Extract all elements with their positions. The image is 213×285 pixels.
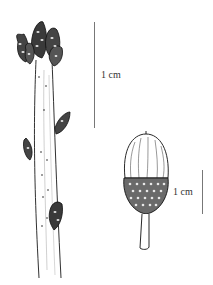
acorn-drawing xyxy=(124,131,169,249)
twig-drawing xyxy=(34,60,61,278)
lateral-buds xyxy=(23,112,70,230)
twig-scale-label: 1 cm xyxy=(101,69,121,80)
acorn-scale-label: 1 cm xyxy=(173,186,193,197)
terminal-bud-cluster xyxy=(17,22,63,66)
botanical-illustration xyxy=(0,0,213,285)
acorn-scale-bar xyxy=(202,170,203,214)
twig-scale-bar xyxy=(94,22,95,128)
